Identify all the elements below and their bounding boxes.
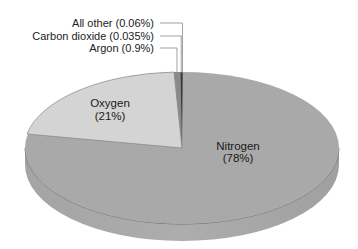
label-all-other: All other (0.06%) <box>72 17 154 29</box>
label-carbon-dioxide: Carbon dioxide (0.035%) <box>32 30 154 42</box>
atmosphere-pie-chart: All other (0.06%) Carbon dioxide (0.035%… <box>0 0 358 249</box>
label-nitrogen-pct: (78%) <box>223 152 254 164</box>
label-oxygen: Oxygen <box>90 97 130 109</box>
label-oxygen-pct: (21%) <box>95 110 126 122</box>
leader-lines <box>160 23 183 73</box>
label-argon: Argon (0.9%) <box>89 42 154 54</box>
label-nitrogen: Nitrogen <box>216 140 259 152</box>
